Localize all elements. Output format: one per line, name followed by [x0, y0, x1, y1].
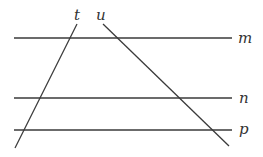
transversal-u	[103, 24, 229, 146]
parallel-lines-transversals-diagram: m n p t u	[0, 0, 263, 157]
label-p: p	[239, 120, 249, 138]
label-m: m	[238, 29, 252, 47]
label-n: n	[239, 89, 249, 107]
label-t: t	[74, 6, 81, 24]
label-u: u	[96, 6, 106, 24]
